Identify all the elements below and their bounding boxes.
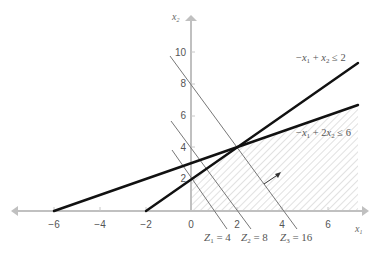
x-tick-label: 4 <box>279 219 285 230</box>
z3-label: Z3 = 16 <box>280 231 313 245</box>
y-axis-arrow-up-icon <box>185 15 197 21</box>
lp-diagram: −6 −4 −2 0 2 4 6 2 4 6 8 10 x2 x1 <box>0 0 378 257</box>
x-tick-label: −6 <box>48 219 60 230</box>
z1-label: Z1 = 4 <box>204 231 231 245</box>
x-tick-label: 0 <box>188 219 194 230</box>
y-tick-label: 10 <box>175 47 187 58</box>
y-tick-label: 4 <box>180 142 186 153</box>
x-axis-arrow-right-icon <box>362 206 369 216</box>
constraint-1-label: −x1 + x2 ≤ 2 <box>296 52 346 65</box>
x-tick-label: −2 <box>140 219 152 230</box>
x-axis-arrow-left-icon <box>11 206 18 216</box>
y-tick-label: 8 <box>180 78 186 89</box>
y-axis-label: x2 <box>171 11 179 23</box>
z2-label: Z2 = 8 <box>241 231 268 245</box>
x-tick-label: 6 <box>325 219 331 230</box>
x-axis-label: x1 <box>354 223 362 235</box>
y-tick-label: 6 <box>180 110 186 121</box>
x-tick-label: −4 <box>94 219 106 230</box>
x-tick-label: 2 <box>234 219 240 230</box>
